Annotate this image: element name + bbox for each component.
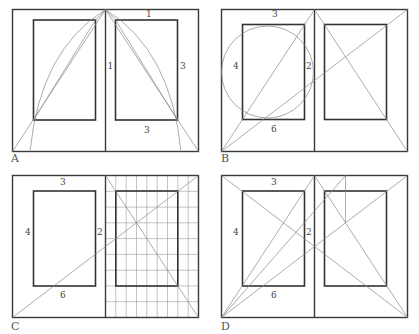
ratio-label-bottom: 3 [144, 125, 150, 135]
diagonal-guide [106, 10, 199, 152]
panel-label: D [221, 320, 230, 333]
ratio-label-bottom: 6 [271, 290, 277, 300]
ratio-label-inner: 2 [97, 227, 103, 237]
diagonal-guide [13, 10, 106, 152]
ratio-label-top: 3 [272, 9, 278, 19]
panel-d: 3 4 2 6 D [221, 176, 408, 334]
panel-label: B [221, 152, 229, 165]
diagonal-guide [222, 176, 315, 318]
panel-a: 1 1 3 3 A [10, 9, 199, 165]
ratio-label-bottom: 6 [271, 124, 277, 134]
ratio-label-top: 3 [60, 177, 66, 187]
page-construction-diagram: 1 1 3 3 A 3 4 2 6 B [0, 0, 419, 334]
arc-guide [30, 10, 106, 152]
panel-c: 3 4 2 6 C [11, 176, 199, 334]
diagonal-guide [222, 10, 315, 152]
diagonal-guide [315, 10, 408, 152]
block-diagonal-guide [116, 20, 178, 120]
ratio-label-top: 3 [271, 177, 277, 187]
left-text-block [34, 191, 96, 286]
panel-label: C [11, 320, 19, 333]
diagonal-guide [222, 176, 346, 318]
ratio-label-top: 1 [146, 9, 152, 19]
ratio-label-outer: 4 [25, 227, 31, 237]
ratio-label-bottom: 6 [60, 290, 66, 300]
diagonal-guide [106, 176, 199, 318]
ratio-label-outer: 4 [233, 61, 239, 71]
panel-b: 3 4 2 6 B [221, 9, 408, 165]
block-diagonal-guide [34, 20, 96, 120]
ratio-label-outer: 4 [233, 227, 239, 237]
ratio-label-inner: 1 [108, 61, 114, 71]
ratio-label-inner: 2 [306, 61, 312, 71]
circle-guide [222, 26, 314, 118]
ratio-label-outer: 3 [180, 61, 186, 71]
diagonal-guide [315, 176, 408, 318]
ratio-label-inner: 2 [306, 227, 312, 237]
panel-label: A [10, 152, 20, 165]
